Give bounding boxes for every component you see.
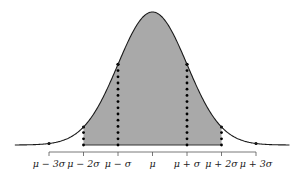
tick-label: μ + 2σ	[205, 158, 238, 169]
tick-label: μ − 2σ	[67, 158, 100, 169]
x-tick-labels: μ − 3σμ − 2σμ − σμμ + σμ + 2σμ + 3σ	[33, 158, 273, 169]
shaded-area	[84, 12, 222, 145]
tick-label: μ + 3σ	[240, 158, 273, 169]
normal-distribution-chart: μ − 3σμ − 2σμ − σμμ + σμ + 2σμ + 3σ	[0, 0, 301, 175]
tick-label: μ − 3σ	[33, 158, 66, 169]
tick-label: μ − σ	[105, 158, 132, 169]
tick-label: μ + σ	[174, 158, 201, 169]
tick-label: μ	[149, 158, 155, 169]
x-axis	[49, 152, 256, 156]
